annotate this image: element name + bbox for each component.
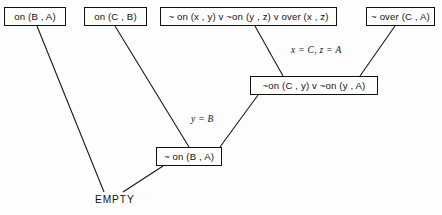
clause-node-not-on-b-a[interactable]: ~ on (B , A) — [156, 147, 222, 166]
clause-node-not-on-xy-or-not-on-yz-or-over-xz[interactable]: ~ on (x , y) v ~on (y , z) v over (x , z… — [160, 7, 337, 26]
clause-node-label: ~ over (C , A) — [371, 11, 430, 21]
resolution-edge — [360, 26, 395, 76]
clause-node-on-c-b[interactable]: on (C , B) — [84, 7, 147, 26]
resolution-tree-diagram: on (B , A) on (C , B) ~ on (x , y) v ~on… — [0, 0, 442, 215]
clause-node-not-over-c-a[interactable]: ~ over (C , A) — [366, 7, 435, 26]
resolution-edge — [123, 166, 163, 192]
resolution-edge — [115, 26, 189, 147]
clause-node-label: on (B , A) — [14, 11, 56, 21]
clause-node-on-b-a[interactable]: on (B , A) — [4, 7, 66, 26]
clause-node-label: ~ on (x , y) v ~on (y , z) v over (x , z… — [168, 11, 328, 21]
resolution-edge — [220, 95, 258, 147]
edge-layer — [0, 0, 442, 215]
substitution-label-x-c-z-a: x = C, z = A — [291, 45, 342, 55]
resolution-edge — [37, 26, 104, 192]
clause-node-not-on-cy-or-not-on-ya[interactable]: ~on (C , y) v ~on (y , A) — [250, 76, 378, 95]
clause-node-label: ~ on (B , A) — [164, 151, 214, 161]
resolution-edge — [255, 26, 283, 76]
substitution-label-y-b: y = B — [191, 114, 214, 124]
clause-node-label: on (C , B) — [94, 11, 137, 21]
clause-node-label: ~on (C , y) v ~on (y , A) — [263, 80, 366, 90]
empty-clause-node: EMPTY — [95, 194, 135, 205]
